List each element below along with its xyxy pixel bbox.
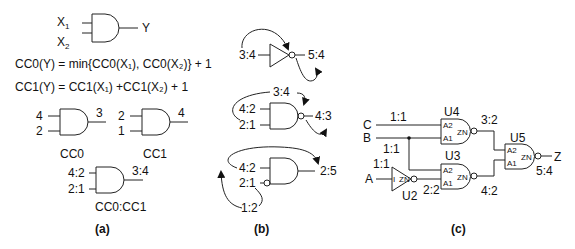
input-b: B bbox=[363, 131, 371, 145]
combined-in2: 2:1 bbox=[68, 182, 85, 196]
cc0-label: CC0 bbox=[60, 147, 84, 161]
u4-a2: A2 bbox=[443, 121, 453, 130]
cc1-out: 4 bbox=[178, 106, 185, 120]
and-inv-in1: 4:2 bbox=[239, 161, 256, 175]
inverter: 3:4 5:4 bbox=[239, 29, 325, 81]
u2-out: 2:2 bbox=[423, 183, 440, 197]
input-c: C bbox=[363, 118, 372, 132]
nand-in2: 2:1 bbox=[239, 118, 256, 132]
cc0-in1: 4 bbox=[36, 109, 43, 123]
cc1-in1: 2 bbox=[118, 109, 125, 123]
u2-name: U2 bbox=[402, 189, 418, 203]
output-y-label: Y bbox=[142, 21, 150, 35]
nand-top: 3:4 bbox=[273, 85, 290, 99]
u4-zn: ZN bbox=[457, 128, 468, 137]
combined-out: 3:4 bbox=[132, 164, 149, 178]
u5-out: 5:4 bbox=[536, 164, 553, 178]
u3-out: 4:2 bbox=[481, 184, 498, 198]
cc1-label: CC1 bbox=[143, 147, 167, 161]
nand-gate: 3:4 4:2 2:1 4:3 bbox=[233, 85, 332, 134]
u4-name: U4 bbox=[444, 105, 460, 119]
gate-u4: U4 A2 A1 ZN 3:2 bbox=[441, 105, 498, 144]
inverter-out: 5:4 bbox=[308, 48, 325, 62]
inverter-in: 3:4 bbox=[239, 48, 256, 62]
testability-diagram: X1 X2 Y CC0(Y) = min{CC0(X₁), CC0(X₂)} +… bbox=[0, 0, 575, 249]
gate-u3: U3 A2 A1 ZN 4:2 bbox=[441, 149, 498, 198]
and-inv-bottom: 1:2 bbox=[241, 201, 258, 215]
u5-a1: A1 bbox=[507, 159, 517, 168]
and-inv-in2: 2:1 bbox=[239, 176, 256, 190]
u3-a1: A1 bbox=[443, 179, 453, 188]
u5-a2: A2 bbox=[507, 146, 517, 155]
panel-c: C B A 1:1 1:1 1:1 U4 A2 A1 ZN 3:2 U3 A2 … bbox=[363, 105, 561, 236]
and-inv-out: 2:5 bbox=[320, 164, 337, 178]
u2-i: I bbox=[393, 175, 395, 184]
combined-gate: 4:2 2:1 3:4 CC0:CC1 bbox=[68, 164, 149, 214]
output-z: Z bbox=[554, 150, 561, 164]
generic-and-gate: X1 X2 Y bbox=[57, 14, 150, 51]
u3-zn: ZN bbox=[457, 173, 468, 182]
u4-out: 3:2 bbox=[481, 113, 498, 127]
cc0-equation: CC0(Y) = min{CC0(X₁), CC0(X₂)} + 1 bbox=[15, 57, 212, 71]
nand-in1: 4:2 bbox=[239, 102, 256, 116]
cc1-in2: 1 bbox=[118, 124, 125, 138]
u2-zn: ZN bbox=[399, 175, 410, 184]
panel-b: 3:4 5:4 3:4 4:2 2:1 4:3 4:2 bbox=[221, 29, 337, 236]
cc0-gate: 4 2 3 CC0 bbox=[36, 106, 106, 161]
caption-b: (b) bbox=[254, 222, 269, 236]
gate-u2: I ZN U2 2:2 bbox=[392, 167, 441, 203]
panel-a: X1 X2 Y CC0(Y) = min{CC0(X₁), CC0(X₂)} +… bbox=[15, 14, 212, 236]
and-gate-symbol bbox=[92, 14, 119, 42]
u5-zn: ZN bbox=[521, 153, 532, 162]
nand-out: 4:3 bbox=[315, 109, 332, 123]
input-x1-label: X1 bbox=[57, 15, 70, 31]
u4-a1: A1 bbox=[443, 134, 453, 143]
input-x2-label: X2 bbox=[57, 35, 70, 51]
caption-c: (c) bbox=[451, 222, 466, 236]
c-controllability: 1:1 bbox=[390, 110, 407, 124]
u3-name: U3 bbox=[445, 149, 461, 163]
cc0-out: 3 bbox=[96, 106, 103, 120]
cc0-in2: 2 bbox=[36, 124, 43, 138]
input-a: A bbox=[365, 172, 373, 186]
gate-u5: U5 A2 A1 ZN Z 5:4 bbox=[505, 131, 561, 178]
u5-name: U5 bbox=[510, 131, 526, 145]
combined-label: CC0:CC1 bbox=[95, 200, 147, 214]
cc1-equation: CC1(Y) = CC1(X₁) +CC1(X₂) + 1 bbox=[15, 80, 188, 94]
and-inverted-input-gate: 4:2 2:1 2:5 1:2 bbox=[221, 147, 337, 215]
combined-in1: 4:2 bbox=[68, 166, 85, 180]
a-controllability: 1:1 bbox=[373, 157, 390, 171]
cc1-gate: 2 1 4 CC1 bbox=[118, 106, 188, 161]
caption-a: (a) bbox=[95, 222, 110, 236]
u3-a2: A2 bbox=[443, 166, 453, 175]
b-controllability: 1:1 bbox=[383, 142, 400, 156]
